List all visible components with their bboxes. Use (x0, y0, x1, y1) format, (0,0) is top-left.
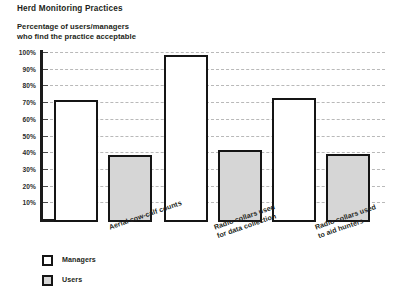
bar-managers-3 (272, 98, 316, 222)
y-axis-tick (43, 186, 48, 187)
y-axis-label: 60% (23, 115, 37, 122)
gridline (50, 69, 385, 70)
y-axis-tick (43, 169, 48, 170)
bar-managers-1 (54, 100, 98, 222)
y-axis-tick (43, 152, 48, 153)
y-axis-label: 90% (23, 65, 37, 72)
y-axis-label: 30% (23, 165, 37, 172)
y-axis-tick (43, 69, 48, 70)
bar-managers-2 (164, 55, 208, 222)
chart-subtitle: Percentage of users/managers who find th… (17, 22, 136, 41)
y-axis-label: 80% (23, 82, 37, 89)
gridline (50, 52, 385, 53)
gridline (50, 102, 385, 103)
y-axis-label: 70% (23, 99, 37, 106)
chart-plot-area: 100%90%80%70%60%50%40%30%20%10% (40, 50, 385, 224)
y-axis-label: 20% (23, 182, 37, 189)
white-square-icon (42, 255, 53, 266)
y-axis-tick (43, 136, 48, 137)
chart-legend: ManagersUsers (42, 252, 96, 292)
y-axis-tick (43, 119, 48, 120)
gridline (50, 136, 385, 137)
y-axis-label: 10% (23, 199, 37, 206)
chart-title: Herd Monitoring Practices (17, 4, 123, 13)
y-axis-tick (43, 52, 48, 53)
legend-item-label: Managers (62, 256, 96, 264)
gridline (50, 119, 385, 120)
legend-item-label: Users (62, 276, 82, 284)
legend-item-users[interactable]: Users (42, 272, 96, 288)
gray-square-icon (42, 275, 53, 286)
y-axis-tick (43, 102, 48, 103)
legend-item-managers[interactable]: Managers (42, 252, 96, 268)
y-axis-label: 100% (19, 49, 36, 56)
gridline (50, 85, 385, 86)
y-axis-label: 50% (23, 132, 37, 139)
y-axis-tick (43, 85, 48, 86)
y-axis-label: 40% (23, 149, 37, 156)
y-axis-tick (43, 202, 48, 203)
